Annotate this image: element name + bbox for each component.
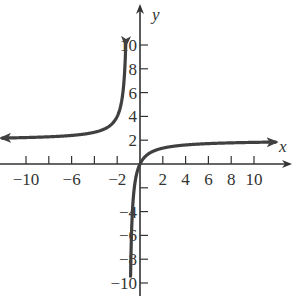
- x-tick-label: −6: [63, 170, 81, 189]
- x-tick-label: 4: [181, 170, 190, 189]
- y-tick-label: 6: [129, 84, 138, 103]
- x-tick-label: 10: [246, 170, 263, 189]
- y-tick-label: −6: [119, 226, 137, 245]
- curve-left-branch: [2, 45, 126, 138]
- y-tick-label: −4: [119, 203, 138, 222]
- x-tick-label: −10: [13, 170, 40, 189]
- y-tick-label: 2: [129, 131, 138, 150]
- y-axis-label: y: [150, 5, 160, 24]
- y-tick-label: 8: [129, 60, 138, 79]
- y-tick-label: −8: [119, 250, 137, 269]
- x-tick-label: 2: [159, 170, 168, 189]
- x-tick-label: 6: [204, 170, 213, 189]
- y-tick-label: 4: [129, 107, 138, 126]
- y-tick-label: −10: [110, 274, 137, 293]
- y-tick-label: 10: [120, 36, 137, 55]
- function-graph: −10−6−2246810108642−4−6−8−10 x y: [0, 0, 300, 296]
- x-tick-label: −2: [108, 170, 126, 189]
- x-tick-label: 8: [227, 170, 236, 189]
- x-axis-label: x: [278, 137, 287, 156]
